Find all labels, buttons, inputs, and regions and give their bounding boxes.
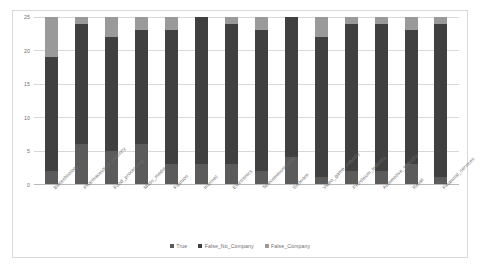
x-axis-label-slot: Pharmaceutical_Industry: [67, 185, 97, 241]
stacked-bar[interactable]: [434, 17, 447, 184]
bar-segment[interactable]: [75, 24, 88, 144]
bar-column[interactable]: [306, 17, 336, 184]
stacked-bar[interactable]: [75, 17, 88, 184]
bar-segment[interactable]: [315, 17, 328, 37]
y-axis-tick-label: 5: [27, 148, 30, 154]
y-axis-tick-label: 25: [24, 14, 30, 20]
x-axis-labels: BiotechnologyPharmaceutical_IndustryFood…: [34, 185, 459, 241]
plot-area: 0510152025: [34, 17, 459, 184]
legend-label: True: [176, 243, 187, 249]
bar-segment[interactable]: [405, 30, 418, 164]
y-axis-tick-label: 10: [24, 115, 30, 121]
stacked-bar[interactable]: [165, 17, 178, 184]
bar-segment[interactable]: [75, 17, 88, 24]
stacked-bar[interactable]: [195, 17, 208, 184]
x-axis-label-slot: Food_processing: [97, 185, 127, 241]
bar-segment[interactable]: [45, 17, 58, 57]
x-axis-label-slot: Automotive_Industry: [366, 185, 396, 241]
bar-column[interactable]: [157, 17, 187, 184]
bar-segment[interactable]: [45, 57, 58, 171]
bar-segment[interactable]: [165, 17, 178, 30]
bar-column[interactable]: [246, 17, 276, 184]
x-axis-label-slot: Financial_services: [426, 185, 456, 241]
x-axis-label-slot: Mass_media: [127, 185, 157, 241]
y-axis-tick-label: 20: [24, 48, 30, 54]
legend-item[interactable]: True: [170, 243, 187, 249]
legend-swatch-icon: [170, 244, 174, 248]
bar-segment[interactable]: [105, 17, 118, 37]
x-axis-label-slot: Biotechnology: [37, 185, 67, 241]
bar-segment[interactable]: [105, 37, 118, 151]
chart-container: 0510152025 BiotechnologyPharmaceutical_I…: [12, 10, 468, 258]
stacked-bar[interactable]: [315, 17, 328, 184]
legend-swatch-icon: [198, 244, 202, 248]
x-axis-label-slot: Petroleum_industry: [336, 185, 366, 241]
y-axis-tick-label: 0: [27, 182, 30, 188]
stacked-bar[interactable]: [225, 17, 238, 184]
bar-segment[interactable]: [135, 17, 148, 30]
x-axis-label-slot: Fashion: [157, 185, 187, 241]
stacked-bar[interactable]: [255, 17, 268, 184]
bar-group: [34, 17, 459, 184]
bar-column[interactable]: [187, 17, 217, 184]
legend-item[interactable]: False_Company: [265, 243, 311, 249]
bar-segment[interactable]: [434, 24, 447, 178]
bar-segment[interactable]: [375, 24, 388, 171]
bar-segment[interactable]: [375, 17, 388, 24]
bar-column[interactable]: [37, 17, 67, 184]
bar-segment[interactable]: [195, 17, 208, 164]
bar-segment[interactable]: [255, 30, 268, 170]
x-axis-label-slot: Retail: [396, 185, 426, 241]
stacked-bar[interactable]: [45, 17, 58, 184]
bar-segment[interactable]: [405, 17, 418, 30]
x-axis-label-slot: Electronics: [217, 185, 247, 241]
bar-segment[interactable]: [225, 17, 238, 24]
x-axis-label-slot: Software: [276, 185, 306, 241]
bar-segment[interactable]: [315, 37, 328, 177]
bar-segment[interactable]: [285, 17, 298, 157]
y-axis-tick-label: 15: [24, 81, 30, 87]
chart-legend: TrueFalse_No_CompanyFalse_Company: [13, 243, 467, 249]
bar-column[interactable]: [217, 17, 247, 184]
legend-swatch-icon: [265, 244, 269, 248]
bar-segment[interactable]: [225, 24, 238, 164]
legend-item[interactable]: False_No_Company: [198, 243, 253, 249]
x-axis-label-slot: Internet: [187, 185, 217, 241]
bar-segment[interactable]: [345, 17, 358, 24]
x-axis-label-slot: Telecommunication: [246, 185, 276, 241]
x-axis-label-slot: Video_game_industry: [306, 185, 336, 241]
bar-segment[interactable]: [135, 30, 148, 144]
bar-segment[interactable]: [165, 30, 178, 164]
bar-column[interactable]: [426, 17, 456, 184]
bar-segment[interactable]: [345, 24, 358, 171]
legend-label: False_Company: [271, 243, 310, 249]
bar-segment[interactable]: [434, 17, 447, 24]
bar-segment[interactable]: [255, 17, 268, 30]
legend-label: False_No_Company: [205, 243, 254, 249]
bar-column[interactable]: [67, 17, 97, 184]
